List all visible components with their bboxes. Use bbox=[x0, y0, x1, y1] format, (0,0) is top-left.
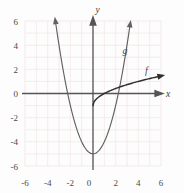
x-tick-label: 4 bbox=[136, 178, 141, 188]
y-axis-arrowhead bbox=[90, 17, 96, 25]
x-axis-arrowhead bbox=[155, 91, 163, 97]
y-tick-label: 4 bbox=[14, 41, 19, 51]
coordinate-plane-svg: x y 6 4 2 0 -2 -4 -6 -6 -4 -2 0 2 4 6 bbox=[0, 0, 184, 193]
y-tick-label: 0 bbox=[14, 89, 19, 99]
y-tick-labels: 6 4 2 0 -2 -4 -6 bbox=[11, 17, 19, 172]
y-tick-label: -2 bbox=[11, 113, 19, 123]
curve-label-g: g bbox=[123, 45, 128, 56]
x-tick-labels: -6 -4 -2 0 2 4 6 bbox=[21, 178, 164, 188]
axis-lines bbox=[22, 17, 163, 170]
x-tick-label: 0 bbox=[87, 178, 92, 188]
y-tick-label: -4 bbox=[11, 137, 19, 147]
x-tick-label: 6 bbox=[159, 178, 164, 188]
curve-g-arrowhead-left bbox=[53, 17, 59, 25]
x-tick-label: -2 bbox=[67, 178, 75, 188]
curve-label-f: f bbox=[145, 65, 149, 76]
y-tick-label: -6 bbox=[11, 162, 19, 172]
x-tick-label: -4 bbox=[44, 178, 52, 188]
x-tick-label: -6 bbox=[21, 178, 29, 188]
x-axis-label: x bbox=[165, 89, 171, 99]
y-tick-label: 2 bbox=[14, 65, 19, 75]
x-tick-label: 2 bbox=[113, 178, 118, 188]
y-axis-label: y bbox=[94, 5, 100, 15]
graph-figure: x y 6 4 2 0 -2 -4 -6 -6 -4 -2 0 2 4 6 bbox=[0, 0, 184, 193]
y-tick-label: 6 bbox=[14, 17, 19, 27]
curve-f bbox=[93, 74, 165, 106]
